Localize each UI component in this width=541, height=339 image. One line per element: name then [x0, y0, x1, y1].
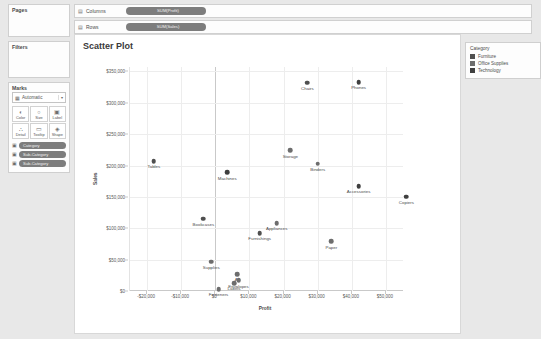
marks-color-button[interactable]: ◐Color: [12, 106, 29, 122]
scatter-point[interactable]: [232, 281, 237, 286]
legend-item-furniture[interactable]: Furniture: [470, 54, 536, 59]
legend-swatch-icon: [470, 68, 475, 73]
legend-title: Category: [470, 46, 536, 51]
plot-area[interactable]: ChairsPhonesStorageBindersTablesMachines…: [129, 67, 403, 291]
y-tick-mark: [125, 196, 128, 197]
marks-card: Marks ▦ Automatic ▾ ◐Color○Size▣Label∴De…: [8, 82, 70, 173]
marks-detail-label: Detail: [16, 132, 26, 137]
gridline-vertical: [181, 67, 182, 291]
legend-item-label: Technology: [478, 68, 501, 73]
scatter-point[interactable]: [257, 231, 262, 236]
rows-shelf[interactable]: ▤ Rows SUM(Sales): [74, 20, 532, 34]
scatter-point[interactable]: [329, 239, 334, 244]
scatter-point-label: Chairs: [301, 86, 314, 91]
x-tick-label: $50,000: [377, 294, 393, 299]
marks-detail-button[interactable]: ∴Detail: [12, 123, 29, 139]
scatter-point[interactable]: [356, 80, 361, 85]
y-tick-label: $250,000: [106, 132, 125, 137]
left-rail: Pages Filters Marks ▦ Automatic ▾ ◐Color…: [8, 4, 70, 177]
marks-pill-row-0[interactable]: ▣Category: [12, 142, 66, 149]
scatter-point[interactable]: [209, 259, 214, 264]
x-axis-title: Profit: [259, 306, 272, 311]
gridline-horizontal: [130, 71, 403, 72]
marks-size-button[interactable]: ○Size: [30, 106, 47, 122]
gridline-vertical: [284, 67, 285, 291]
page-title: Scatter Plot: [83, 41, 133, 51]
mark-type-label: Automatic: [22, 95, 56, 100]
scatter-point[interactable]: [315, 161, 320, 166]
y-tick-label: $200,000: [106, 163, 125, 168]
columns-shelf-label: Columns: [86, 8, 122, 14]
y-tick-mark: [125, 134, 128, 135]
scatter-point[interactable]: [356, 184, 361, 189]
scatter-point[interactable]: [152, 159, 157, 164]
chevron-down-icon[interactable]: ▾: [58, 95, 63, 100]
mark-type-select[interactable]: ▦ Automatic ▾: [12, 92, 66, 103]
y-tick-mark: [125, 102, 128, 103]
scatter-point[interactable]: [288, 148, 293, 153]
scatter-point-label: Phones: [351, 85, 366, 90]
scatter-point[interactable]: [225, 170, 230, 175]
rows-pill-sales[interactable]: SUM(Sales): [126, 23, 206, 31]
y-tick-label: $50,000: [109, 257, 125, 262]
marks-tooltip-button[interactable]: ▭Tooltip: [30, 123, 47, 139]
legend-item-label: Furniture: [478, 54, 496, 59]
marks-shape-label: Shape: [52, 132, 63, 137]
shelves: ▤ Columns SUM(Profit) ▤ Rows SUM(Sales): [74, 4, 532, 36]
scatter-point-label: Accessories: [347, 189, 371, 194]
grid-icon: ▤: [75, 24, 86, 30]
marks-color-label: Color: [16, 115, 25, 120]
filters-dropzone[interactable]: [9, 51, 69, 77]
x-tick-label: $0: [212, 294, 217, 299]
rows-shelf-label: Rows: [86, 24, 122, 30]
mark-type-icon: ▦: [15, 95, 20, 101]
columns-pill-profit[interactable]: SUM(Profit): [126, 7, 206, 15]
y-tick-mark: [125, 165, 128, 166]
y-tick-mark: [125, 228, 128, 229]
marks-label-button[interactable]: ▣Label: [49, 106, 66, 122]
y-tick-mark: [125, 71, 128, 72]
scatter-point[interactable]: [305, 80, 310, 85]
scatter-point[interactable]: [404, 195, 409, 200]
y-tick-label: $100,000: [106, 226, 125, 231]
scatter-point[interactable]: [235, 272, 240, 277]
detail-icon: ▣: [12, 161, 17, 166]
legend-item-technology[interactable]: Technology: [470, 68, 536, 73]
marks-pill-row-2[interactable]: ▣Sub-Category: [12, 160, 66, 167]
legend-item-list: FurnitureOffice SuppliesTechnology: [470, 54, 536, 73]
y-tick-mark: [125, 291, 128, 292]
marks-pill-0[interactable]: Category: [19, 142, 66, 149]
marks-shape-button[interactable]: ◈Shape: [49, 123, 66, 139]
marks-pill-row-1[interactable]: ▣Sub-Category: [12, 151, 66, 158]
pages-dropzone[interactable]: [9, 14, 69, 36]
worksheet-view: Scatter Plot Sales $0$50,000$100,000$150…: [74, 34, 461, 334]
gridline-vertical: [352, 67, 353, 291]
color-icon: ▣: [12, 143, 17, 148]
scatter-point-label: Copiers: [399, 200, 414, 205]
scatter-point-label: Appliances: [266, 226, 287, 231]
pages-card[interactable]: Pages: [8, 4, 70, 37]
gridline-horizontal: [130, 166, 403, 167]
marks-button-grid: ◐Color○Size▣Label∴Detail▭Tooltip◈Shape: [12, 106, 66, 139]
scatter-point-label: Tables: [148, 164, 161, 169]
y-axis-ticks: $0$50,000$100,000$150,000$200,000$250,00…: [75, 67, 125, 291]
y-tick-label: $300,000: [106, 100, 125, 105]
scatter-point-label: Binders: [310, 167, 325, 172]
gridline-vertical: [147, 67, 148, 291]
legend-item-label: Office Supplies: [478, 61, 508, 66]
color-legend: Category FurnitureOffice SuppliesTechnol…: [465, 42, 541, 79]
marks-tooltip-label: Tooltip: [33, 132, 44, 137]
legend-swatch-icon: [470, 61, 475, 66]
marks-pill-2[interactable]: Sub-Category: [19, 160, 66, 167]
grid-icon: ▤: [75, 8, 86, 14]
x-axis-ticks: -$20,000-$10,000$0$10,000$20,000$30,000$…: [129, 291, 402, 303]
marks-pill-1[interactable]: Sub-Category: [19, 151, 66, 158]
gridline-vertical: [386, 67, 387, 291]
columns-shelf[interactable]: ▤ Columns SUM(Profit): [74, 4, 532, 18]
gridline-vertical: [318, 67, 319, 291]
filters-card[interactable]: Filters: [8, 41, 70, 78]
legend-item-office-supplies[interactable]: Office Supplies: [470, 61, 536, 66]
scatter-point[interactable]: [274, 221, 279, 226]
scatter-point[interactable]: [236, 278, 241, 283]
scatter-point[interactable]: [201, 217, 206, 222]
